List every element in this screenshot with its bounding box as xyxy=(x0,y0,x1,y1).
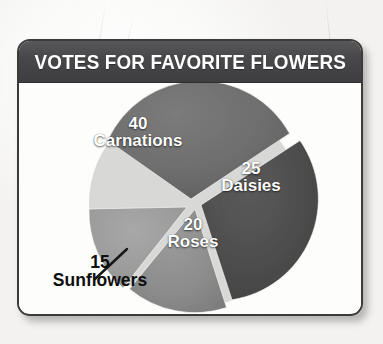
chart-title-bar: VOTES FOR FAVORITE FLOWERS xyxy=(19,41,361,83)
pie-chart-plot-area: 40 Carnations 25 Daisies 20 Roses 15 Sun… xyxy=(19,83,361,313)
page-background: VOTES FOR FAVORITE FLOWERS xyxy=(0,0,383,344)
chart-card: VOTES FOR FAVORITE FLOWERS xyxy=(17,39,363,316)
chart-title: VOTES FOR FAVORITE FLOWERS xyxy=(34,50,345,74)
pie-chart xyxy=(19,83,361,313)
